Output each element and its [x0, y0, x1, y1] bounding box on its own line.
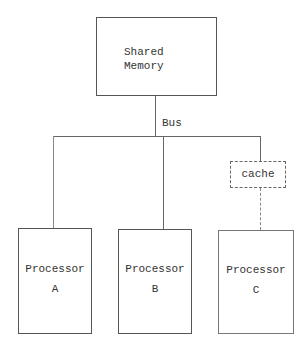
- bus-line: [53, 136, 261, 137]
- processor-a-box: [18, 228, 92, 334]
- cache-processor-connector: [260, 188, 261, 230]
- processor-c-id: C: [218, 283, 294, 297]
- bus-drop-b: [163, 136, 164, 229]
- bus-label: Bus: [162, 116, 184, 130]
- processor-b-id: B: [118, 282, 192, 296]
- processor-c-box: [218, 230, 294, 334]
- processor-b-name: Processor: [118, 262, 192, 276]
- shared-memory-label-line2: Memory: [124, 59, 174, 73]
- bus-drop-a: [53, 136, 54, 228]
- memory-bus-connector: [155, 96, 156, 137]
- processor-a-id: A: [18, 282, 92, 296]
- cache-label: cache: [230, 167, 286, 181]
- processor-a-name: Processor: [18, 262, 92, 276]
- shared-memory-label-line1: Shared: [124, 45, 174, 59]
- bus-drop-cache: [260, 136, 261, 161]
- processor-c-name: Processor: [218, 263, 294, 277]
